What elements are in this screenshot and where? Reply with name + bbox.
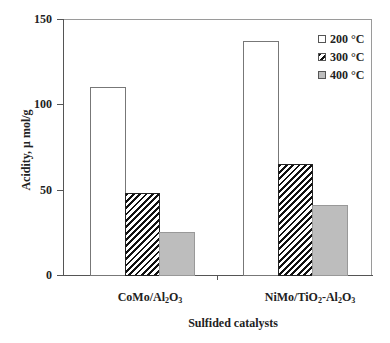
x-tick-mid [217, 275, 218, 280]
legend-swatch-gray-icon [318, 71, 326, 79]
legend-item-300: 300 °C [318, 48, 364, 66]
legend-item-400: 400 °C [318, 66, 364, 84]
legend-swatch-hatch-icon [318, 53, 326, 61]
legend-label-400: 400 °C [330, 68, 364, 83]
y-tick-label-0: 0 [20, 269, 52, 281]
y-tick-0 [57, 275, 63, 276]
y-axis [63, 19, 64, 275]
bar-1-0 [243, 41, 279, 276]
y-tick-100 [57, 104, 63, 105]
y-axis-title: Acidity, μ mol/g [19, 109, 34, 190]
cat2-p2: -Al [322, 290, 338, 304]
legend-label-200: 200 °C [330, 32, 364, 47]
bar-0-1 [125, 193, 161, 276]
x-axis-title: Sulfided catalysts [163, 316, 303, 331]
category-label-como: CoMo/Al2O3 [100, 290, 200, 305]
cat2-p3: O [342, 290, 351, 304]
cat2-p1: NiMo/TiO [265, 290, 318, 304]
bar-1-2 [312, 205, 348, 276]
cat2-s3: 3 [351, 296, 355, 305]
legend: 200 °C 300 °C 400 °C [318, 30, 364, 84]
y-tick-label-100: 100 [20, 98, 52, 110]
bar-0-2 [159, 232, 195, 276]
cat1-sub2: 3 [178, 296, 182, 305]
legend-label-300: 300 °C [330, 50, 364, 65]
legend-swatch-white-icon [318, 35, 326, 43]
y-tick-50 [57, 190, 63, 191]
y-tick-150 [57, 19, 63, 20]
legend-item-200: 200 °C [318, 30, 364, 48]
cat1-mid: O [169, 290, 178, 304]
y-tick-label-150: 150 [20, 13, 52, 25]
cat1-text: CoMo/Al [118, 290, 165, 304]
bar-0-0 [90, 87, 126, 276]
bar-1-1 [278, 164, 314, 276]
category-label-nimo: NiMo/TiO2-Al2O3 [240, 290, 380, 305]
